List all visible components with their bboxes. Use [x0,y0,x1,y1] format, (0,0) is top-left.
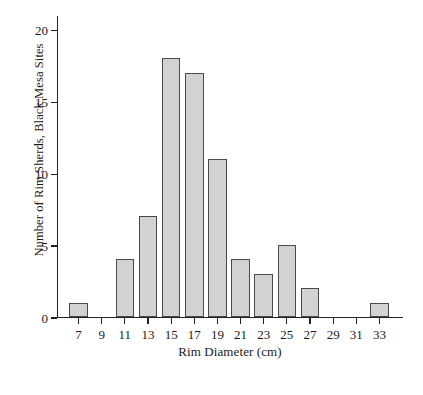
x-axis-tick-label: 17 [188,328,201,341]
x-axis-tick: 9 [101,318,102,324]
x-axis-tick-label: 13 [141,328,154,341]
bar [370,303,389,317]
x-axis-tick: 25 [286,318,287,324]
x-axis-title: Rim Diameter (cm) [57,344,403,360]
y-axis-tick-label: 10 [35,168,48,181]
y-axis-tick-label: 20 [35,24,48,37]
x-axis-line [57,317,403,318]
x-axis-tick: 19 [217,318,218,324]
x-axis-tick-label: 25 [280,328,293,341]
x-axis-tick: 31 [356,318,357,324]
x-axis-tick: 29 [333,318,334,324]
bar [69,303,88,317]
x-axis-tick: 13 [147,318,148,324]
x-axis-tick-label: 29 [327,328,340,341]
x-axis-tick-label: 11 [119,328,132,341]
x-axis-tick: 15 [171,318,172,324]
x-axis-tick-label: 7 [75,328,82,341]
bar [301,288,320,317]
y-axis-tick: 10 [51,174,57,175]
x-axis-tick-label: 31 [350,328,363,341]
plot-area: 05101520 79111315171921232527293133 [57,16,403,318]
x-axis-tick: 23 [263,318,264,324]
histogram-chart: Number of Rim Sherds, Black Mesa Sites 0… [0,0,423,395]
x-axis-tick-label: 27 [303,328,316,341]
x-axis-tick-label: 23 [257,328,270,341]
y-axis-tick: 5 [51,245,57,246]
y-axis-title: Number of Rim Sherds, Black Mesa Sites [26,0,52,300]
bar [162,58,181,317]
x-axis-tick: 11 [124,318,125,324]
bar [278,245,297,317]
x-axis-tick: 27 [309,318,310,324]
x-axis-tick: 7 [78,318,79,324]
bar [231,259,250,317]
y-axis-line [57,16,58,318]
bar [185,73,204,317]
x-axis-tick-label: 33 [373,328,386,341]
x-axis-tick-label: 15 [165,328,178,341]
bar [139,216,158,317]
y-axis-tick: 20 [51,30,57,31]
x-axis-tick: 33 [379,318,380,324]
y-axis-tick-label: 0 [42,311,49,324]
bar [116,259,135,317]
x-axis-tick: 17 [194,318,195,324]
y-axis-tick-label: 15 [35,96,48,109]
y-axis-tick-label: 5 [42,240,49,253]
x-axis-tick-label: 9 [98,328,105,341]
y-axis-tick: 15 [51,102,57,103]
y-axis-tick: 0 [51,317,57,318]
bar [254,274,273,317]
bar [208,159,227,317]
x-axis-tick-label: 21 [234,328,247,341]
x-axis-tick-label: 19 [211,328,224,341]
x-axis-tick: 21 [240,318,241,324]
